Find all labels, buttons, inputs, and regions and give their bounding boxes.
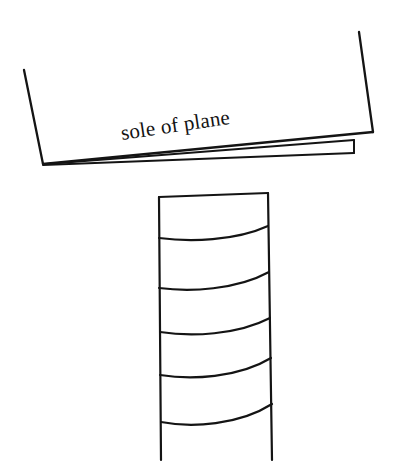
plane-sole-top-line <box>46 140 354 164</box>
shaving-divider-4 <box>160 358 271 377</box>
diagram-canvas: sole of plane <box>0 0 405 473</box>
shaving-divider-2 <box>159 272 269 290</box>
shavings-stack-group <box>159 193 272 460</box>
shaving-divider-3 <box>160 318 270 334</box>
plane-body-group <box>24 32 373 164</box>
plane-body-right-edge <box>359 32 373 132</box>
shaving-divider-5 <box>161 404 272 425</box>
shavings-stack-left-side <box>159 197 161 460</box>
shaving-divider-1 <box>159 226 268 240</box>
shavings-stack-right-side <box>268 193 272 460</box>
plane-body-left-edge <box>24 70 43 164</box>
shavings-stack-top-edge <box>159 193 268 197</box>
sole-of-plane-diagram: sole of plane <box>0 0 405 473</box>
sole-of-plane-label-group: sole of plane <box>119 105 231 145</box>
sole-of-plane-label: sole of plane <box>119 105 231 145</box>
plane-sole-group <box>43 140 354 165</box>
